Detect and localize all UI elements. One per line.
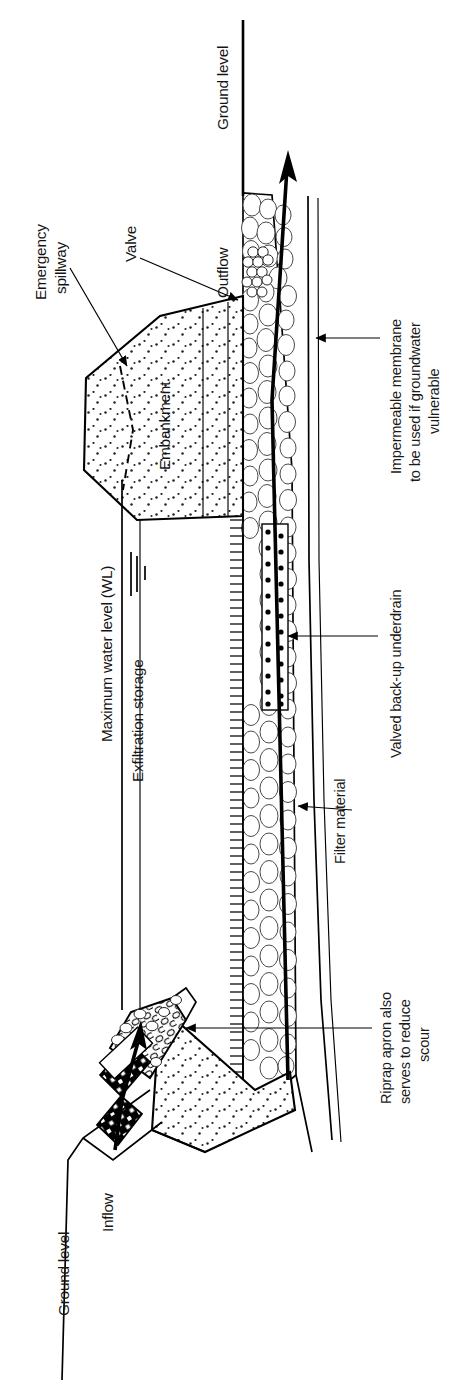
water-level-marker-icon [131,552,145,596]
label-valved-backup-underdrain: Valved back-up underdrain [388,590,404,758]
label-maximum-water-level: Maximum water level (WL) [98,566,115,742]
label-exfiltration-storage: Exfiltration storage [129,660,146,782]
label-emergency-spillway-line1: Emergency [32,224,49,300]
pond-outer-profile [296,196,341,1152]
pond-cross-section-svg: Ground level Emergency spillway Valve Ou… [0,0,470,1393]
leader-emergency-spillway [70,268,127,366]
label-impermeable-membrane-line1: Impermeable membrane [388,319,404,474]
label-embankment: Embankment [156,381,173,470]
label-riprap-line3: scour [416,1027,432,1062]
label-riprap-line1: Riprap apron also [378,992,394,1104]
label-riprap-line2: serves to reduce [397,999,413,1104]
label-impermeable-membrane-line3: vulnerable [426,369,442,434]
label-emergency-spillway-line2: spillway [52,242,69,294]
label-outflow: Outflow [214,246,231,298]
label-valve: Valve [122,226,139,262]
label-ground-level-top: Ground level [214,46,231,130]
diagram-figure: Ground level Emergency spillway Valve Ou… [0,0,470,1393]
label-inflow: Inflow [99,1192,116,1232]
label-filter-material: Filter material [332,779,348,864]
label-impermeable-membrane-line2: to be used if groundwater [407,322,423,482]
label-ground-level-bottom: Ground level [55,1232,72,1316]
exfiltration-hatch [230,516,243,1085]
